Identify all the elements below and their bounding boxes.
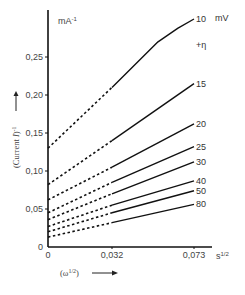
series-label-25: 25 <box>196 142 206 152</box>
series-label-80: 80 <box>196 199 206 209</box>
series-extrapolation-20 <box>48 167 112 200</box>
legend-unit-label: mV <box>215 13 229 23</box>
series-line-25 <box>112 147 194 183</box>
y-tick-label: 0,05 <box>25 204 43 214</box>
series-line-10 <box>112 19 194 87</box>
y-tick-label: 0,15 <box>25 128 43 138</box>
series-extrapolation-10 <box>48 87 112 148</box>
x-unit-label: s1/2 <box>216 251 230 261</box>
y-unit-label: mA-1 <box>58 16 77 26</box>
x-axis-title: (ω1/2) <box>60 268 118 278</box>
y-ticks: 00,050,100,150,200,25 <box>25 52 48 252</box>
arrow-head-icon <box>112 271 118 276</box>
x-tick-label: 0,032 <box>101 250 124 260</box>
series-label-20: 20 <box>196 119 206 129</box>
series-line-80 <box>112 204 194 222</box>
x-tick-label: 0 <box>45 250 50 260</box>
series-line-20 <box>112 124 194 167</box>
series-extrapolation-80 <box>48 223 112 237</box>
x-ticks: 00,0320,073 <box>45 247 205 260</box>
series-label-30: 30 <box>196 157 206 167</box>
series-label-15: 15 <box>196 79 206 89</box>
svg-text:(Current I)-1: (Current I)-1 <box>11 126 21 168</box>
y-axis-title: (Current I)-1 <box>11 91 21 168</box>
chart: 00,050,100,150,200,25 00,0320,073 101520… <box>0 0 245 295</box>
series-extrapolation-15 <box>48 141 112 185</box>
y-tick-label: 0,20 <box>25 90 43 100</box>
series-line-30 <box>112 162 194 194</box>
legend-title-eta: +η <box>196 40 206 50</box>
svg-text:(ω1/2): (ω1/2) <box>60 268 79 278</box>
y-tick-label: 0,25 <box>25 52 43 62</box>
arrow-head-icon <box>14 91 19 96</box>
series-lines <box>48 19 194 237</box>
series-label-40: 40 <box>196 176 206 186</box>
series-line-15 <box>112 84 194 141</box>
series-label-10: 10 <box>196 14 206 24</box>
series-label-50: 50 <box>196 186 206 196</box>
y-tick-label: 0,10 <box>25 166 43 176</box>
x-tick-label: 0,073 <box>183 250 206 260</box>
y-tick-label: 0 <box>38 242 43 252</box>
